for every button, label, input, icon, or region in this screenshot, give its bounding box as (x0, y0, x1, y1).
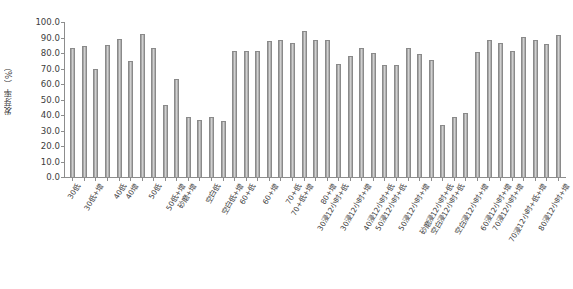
x-axis-tick-mark (431, 177, 432, 181)
bar[interactable] (544, 44, 549, 177)
bar-slot[interactable] (391, 22, 403, 177)
bar[interactable] (556, 35, 561, 177)
bar-slot[interactable] (437, 22, 449, 177)
x-axis-tick-mark (199, 177, 200, 181)
x-axis-tick-mark (512, 177, 513, 181)
x-axis-tick-mark (546, 177, 547, 181)
bar[interactable] (429, 60, 434, 177)
bar-slot[interactable] (171, 22, 183, 177)
x-axis-tick-label: 30低+增 (82, 182, 105, 212)
bar-slot[interactable] (102, 22, 114, 177)
bar-slot[interactable] (287, 22, 299, 177)
bar[interactable] (394, 65, 399, 177)
x-axis-tick-mark (257, 177, 258, 181)
bar-slot[interactable] (183, 22, 195, 177)
bar[interactable] (498, 43, 503, 177)
bar[interactable] (475, 52, 480, 177)
x-axis-tick-mark (396, 177, 397, 181)
bar[interactable] (533, 40, 538, 177)
bar-slot[interactable] (541, 22, 553, 177)
bar[interactable] (70, 48, 75, 177)
bar[interactable] (267, 41, 272, 177)
x-axis-tick-mark (442, 177, 443, 181)
bar[interactable] (128, 61, 133, 177)
bar[interactable] (278, 40, 283, 177)
bar[interactable] (521, 37, 526, 177)
bar-slot[interactable] (252, 22, 264, 177)
bar[interactable] (382, 65, 387, 177)
bar[interactable] (82, 46, 87, 177)
bar[interactable] (140, 34, 145, 177)
bar[interactable] (302, 31, 307, 177)
bar-slot[interactable] (333, 22, 345, 177)
bar-slot[interactable] (136, 22, 148, 177)
bar-slot[interactable] (79, 22, 91, 177)
bar[interactable] (232, 51, 237, 177)
bar[interactable] (336, 64, 341, 177)
bar[interactable] (371, 53, 376, 177)
bar[interactable] (417, 54, 422, 177)
bar-slot[interactable] (264, 22, 276, 177)
y-axis-tick-label: 60.0 (41, 79, 60, 89)
bar[interactable] (452, 117, 457, 177)
y-axis-tick-label: 100.0 (35, 17, 60, 27)
bar-slot[interactable] (495, 22, 507, 177)
bar-slot[interactable] (90, 22, 102, 177)
bar-slot[interactable] (414, 22, 426, 177)
bar-slot[interactable] (472, 22, 484, 177)
bar-slot[interactable] (506, 22, 518, 177)
bar-slot[interactable] (402, 22, 414, 177)
bar-slot[interactable] (460, 22, 472, 177)
bar[interactable] (255, 51, 260, 177)
bar[interactable] (510, 51, 515, 177)
bar-slot[interactable] (368, 22, 380, 177)
bar[interactable] (406, 48, 411, 177)
bar-slot[interactable] (125, 22, 137, 177)
bar-slot[interactable] (345, 22, 357, 177)
x-axis-tick-label: 30低 (66, 182, 82, 201)
bar-slot[interactable] (379, 22, 391, 177)
bar-slot[interactable] (530, 22, 542, 177)
bar[interactable] (325, 40, 330, 177)
bar[interactable] (197, 120, 202, 177)
bar-slot[interactable] (217, 22, 229, 177)
bar[interactable] (105, 45, 110, 177)
bar[interactable] (290, 43, 295, 177)
bar-slot[interactable] (425, 22, 437, 177)
bar-slot[interactable] (483, 22, 495, 177)
bar-slot[interactable] (298, 22, 310, 177)
bar-slot[interactable] (67, 22, 79, 177)
bar[interactable] (487, 40, 492, 177)
bar[interactable] (313, 40, 318, 177)
x-axis-tick-mark (338, 177, 339, 181)
bar[interactable] (440, 125, 445, 177)
bar-slot[interactable] (518, 22, 530, 177)
bar[interactable] (221, 121, 226, 177)
bar[interactable] (359, 48, 364, 177)
bar-slot[interactable] (321, 22, 333, 177)
bar-slot[interactable] (449, 22, 461, 177)
x-axis-tick-mark (384, 177, 385, 181)
bar-slot[interactable] (240, 22, 252, 177)
bar[interactable] (244, 51, 249, 177)
bar-slot[interactable] (356, 22, 368, 177)
bar-slot[interactable] (275, 22, 287, 177)
bar-slot[interactable] (113, 22, 125, 177)
bar-slot[interactable] (148, 22, 160, 177)
bar[interactable] (209, 117, 214, 177)
bar[interactable] (174, 79, 179, 177)
bar-slot[interactable] (206, 22, 218, 177)
bar[interactable] (117, 39, 122, 177)
bar-slot[interactable] (194, 22, 206, 177)
bar-slot[interactable] (229, 22, 241, 177)
bar[interactable] (348, 56, 353, 177)
bar[interactable] (93, 69, 98, 177)
y-axis-tick-labels: 100.090.080.070.060.050.040.030.020.010.… (20, 16, 62, 182)
bar[interactable] (163, 105, 168, 177)
bar-slot[interactable] (160, 22, 172, 177)
bar[interactable] (151, 48, 156, 177)
bar-slot[interactable] (310, 22, 322, 177)
bar[interactable] (186, 117, 191, 177)
bar[interactable] (463, 113, 468, 177)
bar-slot[interactable] (553, 22, 565, 177)
